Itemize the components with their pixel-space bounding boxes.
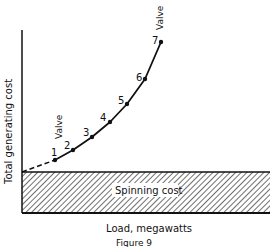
point-label-5: 5 <box>118 95 124 106</box>
point-label-6: 6 <box>136 72 142 83</box>
point-label-7: 7 <box>152 35 158 46</box>
dashed-segment <box>22 160 55 172</box>
point-label-1: 1 <box>51 147 57 158</box>
valve-annotation-high: Valve <box>155 5 165 30</box>
point-label-3: 3 <box>83 127 89 138</box>
figure-caption: Figure 9 <box>116 238 152 247</box>
y-axis-label: Total generating cost <box>3 79 14 185</box>
cost-curve <box>55 42 161 160</box>
band-label: Spinning cost <box>115 185 183 196</box>
point-label-4: 4 <box>100 112 106 123</box>
point-label-2: 2 <box>64 140 70 151</box>
x-axis-label: Load, megawatts <box>106 223 192 234</box>
cost-curve-diagram: Spinning cost 1 2 3 4 5 6 7 Valve Valve … <box>0 0 272 247</box>
valve-annotation-low: Valve <box>54 114 64 139</box>
